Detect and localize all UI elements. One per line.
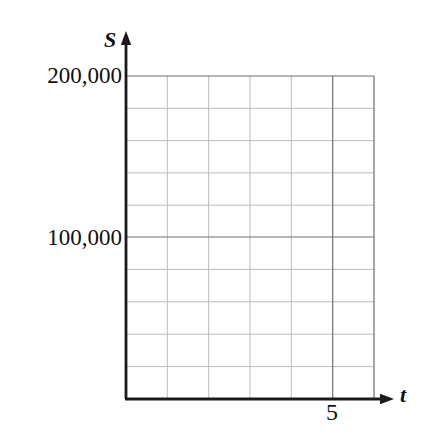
t-axis-label: t <box>400 382 406 408</box>
s-axis-label: S <box>104 27 116 53</box>
y-tick-label-100000: 100,000 <box>47 225 122 251</box>
x-axis <box>125 394 394 404</box>
y-axis-arrowhead <box>121 31 131 45</box>
x-axis-arrowhead <box>380 394 394 404</box>
y-tick-label-200000: 200,000 <box>47 63 122 89</box>
x-tick-label-5: 5 <box>326 399 338 426</box>
graph-figure: 200,000 100,000 5 S t <box>0 0 439 444</box>
y-axis <box>121 31 131 399</box>
